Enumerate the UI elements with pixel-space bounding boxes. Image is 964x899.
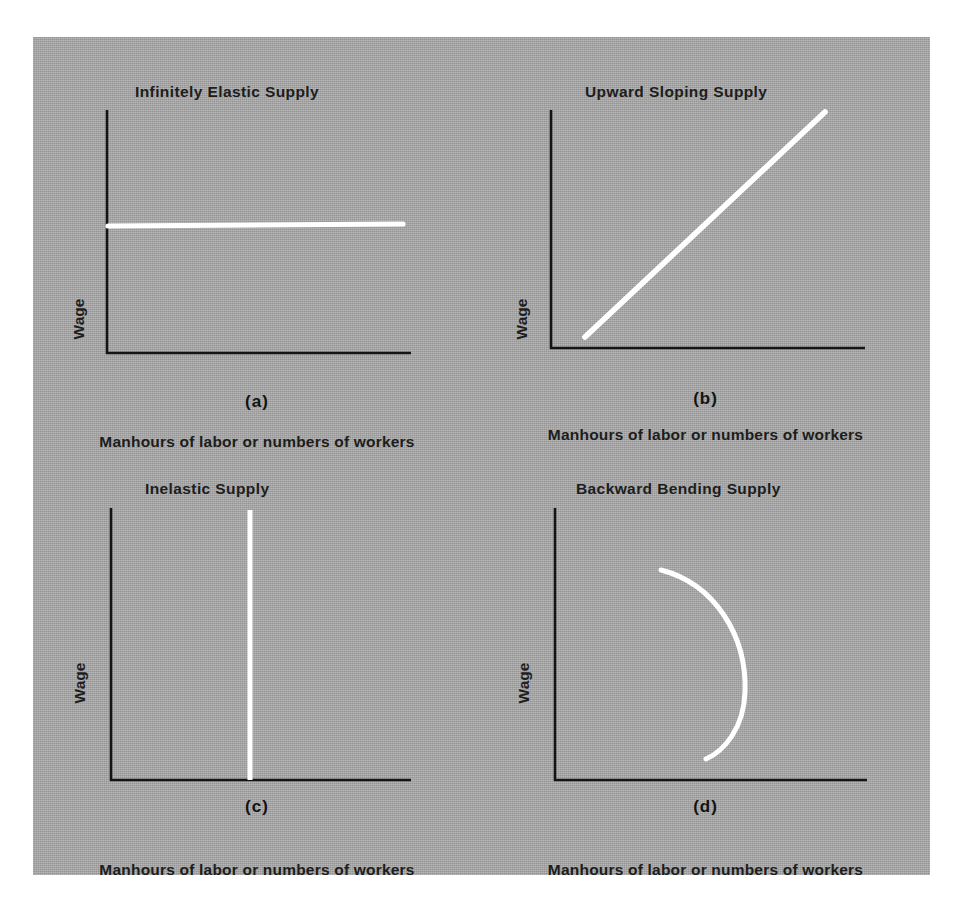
panel-b-plot <box>517 87 927 377</box>
panel-c: Inelastic Supply Wage (c) Manhours of la… <box>33 456 481 875</box>
panel-a-caption: Manhours of labor or numbers of workers <box>33 433 481 451</box>
panel-c-plot <box>75 496 475 786</box>
panel-a-letter: (a) <box>33 392 481 412</box>
panel-d: Backward Bending Supply Wage (d) Manhour… <box>481 456 930 875</box>
panel-b-letter: (b) <box>481 389 930 409</box>
panel-b-caption: Manhours of labor or numbers of workers <box>481 426 930 444</box>
panel-c-caption: Manhours of labor or numbers of workers <box>33 861 481 879</box>
figure-plate: Infinitely Elastic Supply Wage (a) Manho… <box>33 37 930 875</box>
panel-b: Upward Sloping Supply Wage (b) Manhours … <box>481 37 930 456</box>
panel-d-supply-curve <box>661 570 745 759</box>
panel-d-plot <box>519 496 929 786</box>
figure-root: Infinitely Elastic Supply Wage (a) Manho… <box>0 0 964 899</box>
panel-a-supply-curve <box>108 224 403 226</box>
panel-d-caption: Manhours of labor or numbers of workers <box>481 861 930 879</box>
panel-c-letter: (c) <box>33 797 481 817</box>
panel-d-letter: (d) <box>481 797 930 817</box>
panel-a-plot <box>73 87 473 377</box>
panel-a: Infinitely Elastic Supply Wage (a) Manho… <box>33 37 481 456</box>
panel-b-supply-curve <box>585 112 825 337</box>
